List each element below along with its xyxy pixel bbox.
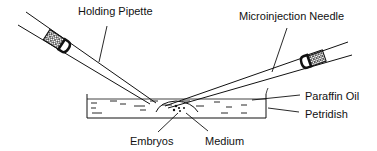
label-microinjection-needle: Microinjection Needle — [239, 10, 344, 22]
leader-microinjection-needle — [272, 28, 287, 72]
paraffin-oil — [91, 101, 247, 113]
holding-pipette-grip-icon — [43, 30, 71, 54]
microinjection-diagram — [0, 0, 377, 151]
leader-petridish — [268, 108, 299, 112]
label-medium: Medium — [205, 135, 244, 147]
label-holding-pipette: Holding Pipette — [78, 5, 153, 17]
leader-holding-pipette — [99, 26, 107, 62]
label-paraffin-oil: Paraffin Oil — [305, 90, 359, 102]
leader-embryos — [158, 113, 178, 132]
leader-paraffin-oil — [252, 95, 300, 100]
label-petridish: Petridish — [305, 108, 348, 120]
label-embryos: Embryos — [130, 135, 173, 147]
leader-medium — [186, 113, 208, 131]
holding-pipette — [18, 12, 156, 104]
needle-grip-icon — [300, 50, 327, 69]
